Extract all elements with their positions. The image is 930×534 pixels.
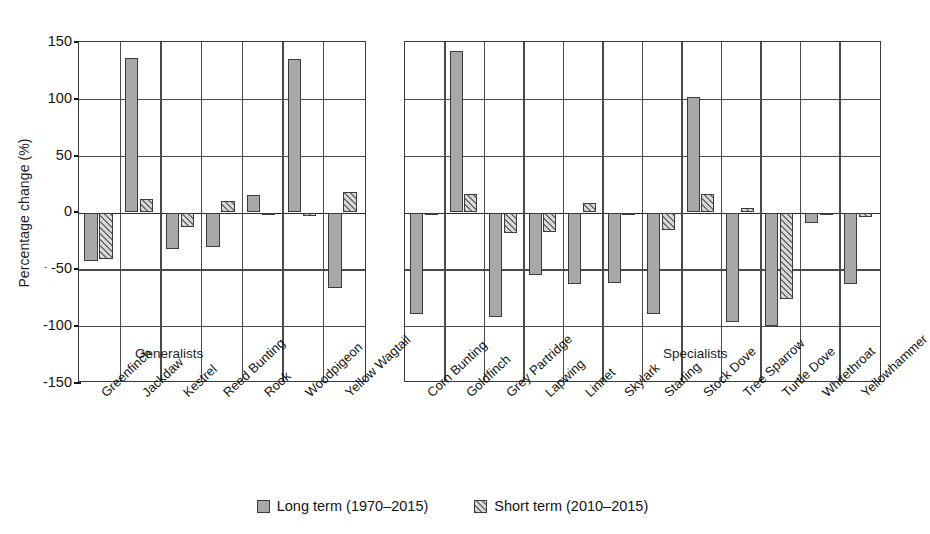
bar-long-term — [765, 213, 778, 327]
bar-group — [444, 42, 483, 381]
bar-short-term — [741, 208, 754, 213]
bar-long-term — [450, 51, 463, 212]
y-tick-neg100: -100 — [20, 318, 72, 333]
bar-group — [242, 42, 283, 381]
legend-swatch-short-term — [474, 500, 487, 513]
bar-short-term — [303, 213, 316, 216]
bar-long-term — [647, 213, 660, 314]
bar-group — [642, 42, 681, 381]
bar-group — [721, 42, 760, 381]
bar-long-term — [125, 58, 138, 213]
legend-label-short-term: Short term (2010–2015) — [494, 498, 648, 514]
bar-short-term — [221, 201, 234, 212]
bar-short-term — [343, 192, 356, 212]
bar-long-term — [166, 213, 179, 249]
legend-item-short-term: Short term (2010–2015) — [474, 498, 648, 514]
bar-long-term — [529, 213, 542, 276]
chart-legend: Long term (1970–2015) Short term (2010–2… — [0, 492, 905, 520]
y-tick-neg50: -50 — [20, 261, 72, 276]
y-tick-100: 100 — [20, 91, 72, 106]
y-tick-50: 50 — [20, 148, 72, 163]
plot-panel-specialists: Specialists — [404, 41, 881, 382]
bar-long-term — [568, 213, 581, 285]
bar-short-term — [99, 213, 112, 260]
bar-group — [760, 42, 799, 381]
bar-long-term — [288, 59, 301, 212]
panel-label-specialists: Specialists — [663, 346, 728, 361]
bar-short-term — [543, 213, 556, 232]
bar-group — [839, 42, 878, 381]
bar-group — [484, 42, 523, 381]
bar-group — [201, 42, 242, 381]
legend-item-long-term: Long term (1970–2015) — [257, 498, 429, 514]
bar-group — [323, 42, 364, 381]
bar-short-term — [181, 213, 194, 228]
y-tick-150: 150 — [20, 34, 72, 49]
bar-long-term — [844, 213, 857, 285]
bar-group — [79, 42, 120, 381]
legend-swatch-long-term — [257, 500, 270, 513]
bar-short-term — [140, 199, 153, 213]
bar-short-term — [662, 213, 675, 230]
y-tick-0: 0 — [20, 204, 72, 219]
bar-long-term — [84, 213, 97, 262]
bar-long-term — [805, 213, 818, 223]
bar-group — [160, 42, 201, 381]
bar-long-term — [410, 213, 423, 314]
bar-short-term — [859, 213, 872, 218]
bar-group — [120, 42, 161, 381]
bar-short-term — [262, 213, 275, 215]
bar-short-term — [701, 194, 714, 212]
bar-short-term — [464, 194, 477, 212]
plot-panel-generalists: Generalists — [78, 41, 366, 382]
legend-label-long-term: Long term (1970–2015) — [277, 498, 429, 514]
bar-group — [800, 42, 839, 381]
bar-short-term — [622, 213, 635, 215]
bar-long-term — [687, 97, 700, 213]
bar-group — [282, 42, 323, 381]
bar-short-term — [583, 203, 596, 212]
bar-long-term — [489, 213, 502, 318]
bar-long-term — [328, 213, 341, 288]
bar-group — [602, 42, 641, 381]
bar-group — [563, 42, 602, 381]
bar-short-term — [504, 213, 517, 233]
bar-short-term — [820, 213, 833, 215]
bar-long-term — [608, 213, 621, 283]
bar-long-term — [206, 213, 219, 247]
bar-group — [405, 42, 444, 381]
y-tick-neg150: -150 — [20, 375, 72, 390]
x-axis-labels: GreenfinchJackdawKestrelReed BuntingRook… — [0, 389, 905, 499]
bar-short-term — [425, 213, 438, 215]
bar-long-term — [726, 213, 739, 322]
bar-long-term — [247, 195, 260, 212]
bar-group — [523, 42, 562, 381]
bar-group — [681, 42, 720, 381]
bar-short-term — [780, 213, 793, 299]
